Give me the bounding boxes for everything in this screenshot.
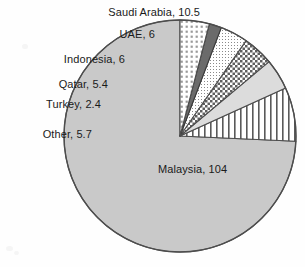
pie-chart: Saudi Arabia, 10.5 UAE, 6 Indonesia, 6 Q…	[0, 0, 305, 267]
slice-label-other: Other, 5.7	[0, 128, 92, 141]
slice-label-saudi-arabia: Saudi Arabia, 10.5	[48, 6, 200, 19]
slice-label-uae: UAE, 6	[30, 28, 155, 41]
slice-label-indonesia: Indonesia, 6	[5, 53, 125, 66]
slice-label-malaysia: Malaysia, 104	[158, 163, 227, 176]
slice-label-turkey: Turkey, 2.4	[2, 98, 101, 111]
slice-label-qatar: Qatar, 5.4	[4, 78, 108, 91]
